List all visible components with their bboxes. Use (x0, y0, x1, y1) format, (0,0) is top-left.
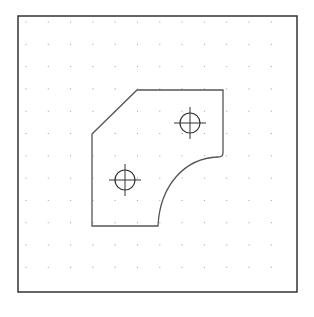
cad-drawing-canvas[interactable] (0, 0, 314, 317)
grid-dot (26, 178, 27, 179)
grid-dot (182, 44, 183, 45)
grid-dot (271, 178, 272, 179)
grid-dot (159, 267, 160, 268)
grid-dot (271, 245, 272, 246)
grid-dot (159, 222, 160, 223)
grid-dot (182, 111, 183, 112)
grid-dot (92, 44, 93, 45)
grid-dot (70, 111, 71, 112)
grid-dot (70, 66, 71, 67)
grid-dot (271, 88, 272, 89)
grid-dot (26, 111, 27, 112)
grid-dot (226, 88, 227, 89)
grid-dot (271, 200, 272, 201)
grid-dot (137, 222, 138, 223)
grid-dot (26, 222, 27, 223)
grid-dot (92, 245, 93, 246)
grid-dot (226, 44, 227, 45)
grid-dot (271, 44, 272, 45)
grid-dot (26, 66, 27, 67)
grid-dot (182, 267, 183, 268)
grid-dot (249, 66, 250, 67)
grid-dot (48, 222, 49, 223)
grid-dot (226, 66, 227, 67)
drawing-frame (18, 16, 297, 292)
grid-dot (92, 22, 93, 23)
grid-dot (159, 88, 160, 89)
grid-dot (159, 178, 160, 179)
grid-dot (137, 111, 138, 112)
grid-dot (26, 155, 27, 156)
grid-dot (70, 88, 71, 89)
grid-dot (159, 111, 160, 112)
grid-dot (137, 267, 138, 268)
grid-dot (182, 133, 183, 134)
grid-dot (249, 111, 250, 112)
grid-dot (26, 88, 27, 89)
grid-dot (48, 200, 49, 201)
grid-dot (159, 44, 160, 45)
grid-dot (249, 178, 250, 179)
grid-dot (204, 222, 205, 223)
grid-dot (159, 133, 160, 134)
grid-dot (226, 200, 227, 201)
grid-dot (92, 66, 93, 67)
hole-with-centermark[interactable] (174, 107, 206, 139)
grid-dot (204, 267, 205, 268)
grid-dot (271, 22, 272, 23)
grid-dot (249, 22, 250, 23)
grid-dot (115, 245, 116, 246)
grid-dot (159, 66, 160, 67)
grid-dot (48, 44, 49, 45)
grid-dot (70, 267, 71, 268)
grid-dot (48, 155, 49, 156)
grid-dot (182, 222, 183, 223)
grid-dot (48, 178, 49, 179)
grid-dot (115, 88, 116, 89)
holes-group (109, 107, 206, 196)
grid-dot (26, 245, 27, 246)
grid-dot (137, 245, 138, 246)
grid-dot (159, 155, 160, 156)
grid-dot (204, 178, 205, 179)
grid-dot (271, 133, 272, 134)
grid-dot (26, 267, 27, 268)
grid-dot (204, 88, 205, 89)
grid-dot (137, 155, 138, 156)
grid-dot (115, 22, 116, 23)
grid-dot (70, 44, 71, 45)
grid-dot (249, 267, 250, 268)
grid-dot (115, 66, 116, 67)
grid-dot (204, 44, 205, 45)
grid-dot (249, 88, 250, 89)
grid-dot (70, 133, 71, 134)
grid-dot (70, 22, 71, 23)
grid-dot (204, 200, 205, 201)
hole-with-centermark[interactable] (109, 164, 141, 196)
grid-dot (26, 133, 27, 134)
grid-dot (48, 245, 49, 246)
grid-dot (70, 222, 71, 223)
grid-dot (137, 22, 138, 23)
grid-dot (226, 267, 227, 268)
grid-dot (26, 44, 27, 45)
grid-dot (249, 44, 250, 45)
grid-dot (271, 267, 272, 268)
grid-dot (48, 267, 49, 268)
grid-dot (137, 178, 138, 179)
grid-dot (204, 111, 205, 112)
grid-dot (249, 200, 250, 201)
grid-dot (48, 133, 49, 134)
grid-dot (137, 200, 138, 201)
grid-dot (249, 222, 250, 223)
grid-dot (249, 245, 250, 246)
grid-dot (159, 22, 160, 23)
grid-dot (48, 66, 49, 67)
grid-dot (92, 88, 93, 89)
grid-dot (92, 267, 93, 268)
grid-dot (48, 22, 49, 23)
grid-dot (92, 111, 93, 112)
grid-dot (226, 155, 227, 156)
grid-dot (182, 245, 183, 246)
part-outline[interactable] (92, 90, 223, 226)
